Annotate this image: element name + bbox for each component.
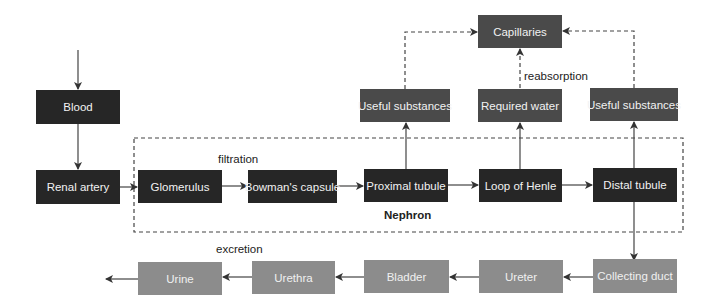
node-bowmans-capsule: Bowman's capsule xyxy=(248,170,337,203)
node-label: Urine xyxy=(166,273,193,285)
node-distal-tubule: Distal tubule xyxy=(593,168,677,202)
node-label: Useful substances xyxy=(587,99,681,111)
node-proximal-tubule: Proximal tubule xyxy=(364,169,448,202)
node-urine: Urine xyxy=(138,262,222,295)
label-filtration: filtration xyxy=(218,153,258,165)
node-renal-artery: Renal artery xyxy=(36,170,120,204)
node-ureter: Ureter xyxy=(479,260,563,293)
node-label: Urethra xyxy=(274,272,312,284)
node-useful-substances-2: Useful substances xyxy=(590,88,678,121)
node-glomerulus: Glomerulus xyxy=(138,170,222,203)
node-bladder: Bladder xyxy=(364,260,449,293)
node-useful-substances-1: Useful substances xyxy=(360,89,450,122)
label-reabsorption: reabsorption xyxy=(524,70,588,82)
node-label: Renal artery xyxy=(47,181,110,193)
node-collecting-duct: Collecting duct xyxy=(593,259,677,293)
node-label: Bowman's capsule xyxy=(245,181,341,193)
label-excretion: excretion xyxy=(216,243,263,255)
node-capillaries: Capillaries xyxy=(478,15,562,48)
label-nephron: Nephron xyxy=(384,209,431,221)
node-blood: Blood xyxy=(36,90,120,124)
node-label: Bladder xyxy=(387,271,427,283)
node-label: Blood xyxy=(63,101,92,113)
node-label: Loop of Henle xyxy=(485,180,557,192)
node-label: Ureter xyxy=(505,271,537,283)
node-label: Collecting duct xyxy=(597,270,672,282)
node-label: Glomerulus xyxy=(151,181,210,193)
node-loop-of-henle: Loop of Henle xyxy=(479,169,562,202)
node-label: Useful substances xyxy=(358,100,452,112)
node-label: Required water xyxy=(481,100,559,112)
node-urethra: Urethra xyxy=(252,261,335,294)
node-label: Capillaries xyxy=(493,26,547,38)
node-label: Distal tubule xyxy=(603,179,666,191)
node-required-water: Required water xyxy=(478,89,562,122)
node-label: Proximal tubule xyxy=(366,180,445,192)
